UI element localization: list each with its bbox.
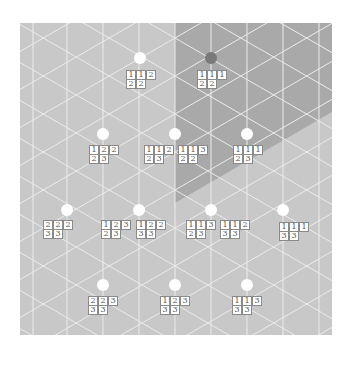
tableau-row: 123: [160, 296, 190, 305]
tableau-cell: 1: [299, 222, 309, 232]
tableau-cell: 1: [217, 70, 227, 80]
tableau-cell: 3: [196, 229, 206, 239]
young-tableau: 22333: [88, 296, 118, 314]
young-tableau: 11123: [233, 145, 263, 163]
tableau-cell: 1: [253, 145, 263, 155]
tableau-row: 113: [232, 296, 262, 305]
tableau-cell: 2: [233, 154, 243, 164]
tableau-cell: 2: [146, 70, 156, 80]
tableau-cell: 3: [111, 229, 121, 239]
tableau-row: 23: [144, 154, 174, 163]
tableau-cell: 3: [43, 229, 53, 239]
tableau-cell: 3: [53, 229, 63, 239]
tableau-cell: 3: [243, 154, 253, 164]
tableau-cell: 3: [99, 154, 109, 164]
tableau-cell: 3: [146, 229, 156, 239]
tableau-row: 23: [101, 229, 131, 238]
tableau-cell: 3: [230, 229, 240, 239]
tableau-row: 33: [136, 229, 166, 238]
tableau-cell: 3: [170, 305, 180, 315]
tableau-cell: 3: [252, 296, 262, 306]
tableau-row: 33: [279, 231, 309, 240]
tableau-cell: 2: [197, 79, 207, 89]
tableau-cell: 2: [186, 229, 196, 239]
tableau-cell: 2: [164, 145, 174, 155]
tableau-cell: 3: [232, 305, 242, 315]
young-tableau: 22233: [43, 220, 73, 238]
tableau-cell: 2: [109, 145, 119, 155]
tableau-cell: 3: [88, 305, 98, 315]
tableau-row: 22: [126, 79, 156, 88]
tableau-cell: 2: [101, 229, 111, 239]
tableau-row: 33: [232, 305, 262, 314]
tableau-cell: 3: [160, 305, 170, 315]
tableau-cell: 3: [206, 220, 216, 230]
young-tableau: 12333: [160, 296, 190, 314]
weight-dot: [134, 52, 146, 64]
tableau-row: 33: [220, 229, 250, 238]
young-tableau: 11133: [279, 222, 309, 240]
weight-diagram: 1122211122122231122311322111232223312323…: [0, 0, 350, 368]
tableau-row: 33: [160, 305, 190, 314]
tableau-cell: 2: [89, 154, 99, 164]
weight-dot: [133, 204, 145, 216]
tableau-row: 112: [144, 145, 174, 154]
young-tableau: 11233: [220, 220, 250, 238]
tableau-row: 111: [233, 145, 263, 154]
tableau-row: 113: [186, 220, 216, 229]
tableau-cell: 2: [207, 79, 217, 89]
tableau-row: 223: [88, 296, 118, 305]
tableau-cell: 3: [198, 145, 208, 155]
tableau-cell: 3: [136, 229, 146, 239]
tableau-cell: 2: [63, 220, 73, 230]
tableau-cell: 3: [279, 231, 289, 241]
weight-dot: [277, 204, 289, 216]
weight-dot: [61, 204, 73, 216]
tableau-cell: 2: [156, 220, 166, 230]
young-tableau: 12233: [136, 220, 166, 238]
tableau-cell: 2: [188, 154, 198, 164]
tableau-row: 222: [43, 220, 73, 229]
young-tableau: 11223: [144, 145, 174, 163]
young-tableau: 11323: [186, 220, 216, 238]
tableau-cell: 3: [98, 305, 108, 315]
weight-dot: [97, 128, 109, 140]
tableau-row: 23: [186, 229, 216, 238]
tableau-row: 22: [178, 154, 208, 163]
tableau-row: 112: [126, 70, 156, 79]
weight-dot: [169, 279, 181, 291]
tableau-row: 33: [43, 229, 73, 238]
tableau-cell: 3: [289, 231, 299, 241]
tableau-cell: 2: [136, 79, 146, 89]
tableau-cell: 3: [108, 296, 118, 306]
tableau-row: 33: [88, 305, 118, 314]
young-tableau: 11122: [197, 70, 227, 88]
highlighted-weight-dot: [205, 52, 217, 64]
tableau-cell: 2: [240, 220, 250, 230]
tableau-row: 23: [89, 154, 119, 163]
tableau-cell: 2: [178, 154, 188, 164]
tableau-row: 122: [89, 145, 119, 154]
young-tableau: 12223: [89, 145, 119, 163]
tableau-row: 112: [220, 220, 250, 229]
tableau-row: 23: [233, 154, 263, 163]
young-tableau: 11322: [178, 145, 208, 163]
weight-dot: [205, 204, 217, 216]
young-tableau: 12323: [101, 220, 131, 238]
tableau-cell: 3: [220, 229, 230, 239]
tableau-row: 123: [101, 220, 131, 229]
tableau-row: 113: [178, 145, 208, 154]
tableau-cell: 2: [144, 154, 154, 164]
tableau-row: 111: [197, 70, 227, 79]
weight-dot: [97, 279, 109, 291]
tableau-row: 122: [136, 220, 166, 229]
tableau-cell: 3: [242, 305, 252, 315]
weight-dot: [169, 128, 181, 140]
tableau-row: 22: [197, 79, 227, 88]
tableau-row: 111: [279, 222, 309, 231]
tableau-cell: 2: [126, 79, 136, 89]
weight-dot: [241, 128, 253, 140]
weight-dot: [241, 279, 253, 291]
tableau-cell: 3: [154, 154, 164, 164]
tableau-cell: 3: [180, 296, 190, 306]
